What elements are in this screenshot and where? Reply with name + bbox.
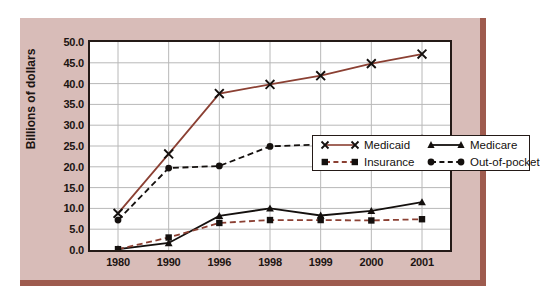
legend-label-medicare: Medicare <box>470 139 517 151</box>
legend-label-medicaid: Medicaid <box>364 139 410 151</box>
x-axis-tick-label: 1998 <box>258 256 282 268</box>
data-point-marker <box>419 216 425 222</box>
chart-legend: Medicaid Medicare <box>312 135 530 171</box>
x-axis-tick-label: 1990 <box>157 256 181 268</box>
x-axis-tick-label: 1999 <box>309 256 333 268</box>
x-axis-tick-label: 2001 <box>410 256 434 268</box>
y-axis-tick-label: 30.0 <box>38 119 84 131</box>
data-point-marker <box>165 165 172 172</box>
legend-symbol-insurance <box>319 155 361 169</box>
y-axis-tick-label: 15.0 <box>38 182 84 194</box>
y-axis-tick-label: 5.0 <box>38 223 84 235</box>
y-axis-tick-label: 40.0 <box>38 78 84 90</box>
x-axis-tick-labels: 1980199019961998199920002001 <box>88 256 452 276</box>
legend-entry-insurance[interactable]: Insurance <box>319 153 415 171</box>
y-axis-tick-label: 35.0 <box>38 98 84 110</box>
y-axis-tick-label: 20.0 <box>38 161 84 173</box>
data-point-marker <box>216 163 223 170</box>
legend-row-1: Medicaid Medicare <box>313 136 531 154</box>
data-point-marker <box>115 246 121 250</box>
y-axis-tick-label: 45.0 <box>38 57 84 69</box>
data-point-marker <box>317 217 323 223</box>
legend-symbol-medicare <box>425 138 467 152</box>
x-axis-tick-label: 1996 <box>207 256 231 268</box>
legend-label-out-of-pocket: Out-of-pocket <box>470 156 540 168</box>
data-point-marker <box>368 217 374 223</box>
y-axis-tick-label: 0.0 <box>38 244 84 256</box>
legend-symbol-medicaid <box>319 138 361 152</box>
legend-label-insurance: Insurance <box>364 156 415 168</box>
plot-area: Medicaid Medicare <box>88 40 452 252</box>
data-point-marker <box>165 234 171 240</box>
y-axis-tick-label: 50.0 <box>38 36 84 48</box>
y-axis-tick-labels: 0.05.010.015.020.025.030.035.040.045.050… <box>36 40 84 252</box>
legend-entry-medicare[interactable]: Medicare <box>425 136 517 154</box>
legend-entry-out-of-pocket[interactable]: Out-of-pocket <box>425 153 540 171</box>
data-point-marker <box>267 217 273 223</box>
data-point-marker <box>267 143 274 150</box>
x-axis-tick-label: 1980 <box>106 256 130 268</box>
y-axis-tick-label: 25.0 <box>38 140 84 152</box>
legend-row-2: Insurance Out-of-pocket <box>313 153 531 171</box>
data-point-marker <box>216 220 222 226</box>
x-axis-tick-label: 2000 <box>359 256 383 268</box>
legend-symbol-out-of-pocket <box>425 155 467 169</box>
y-axis-tick-label: 10.0 <box>38 202 84 214</box>
legend-entry-medicaid[interactable]: Medicaid <box>319 136 410 154</box>
data-point-marker <box>115 217 122 224</box>
